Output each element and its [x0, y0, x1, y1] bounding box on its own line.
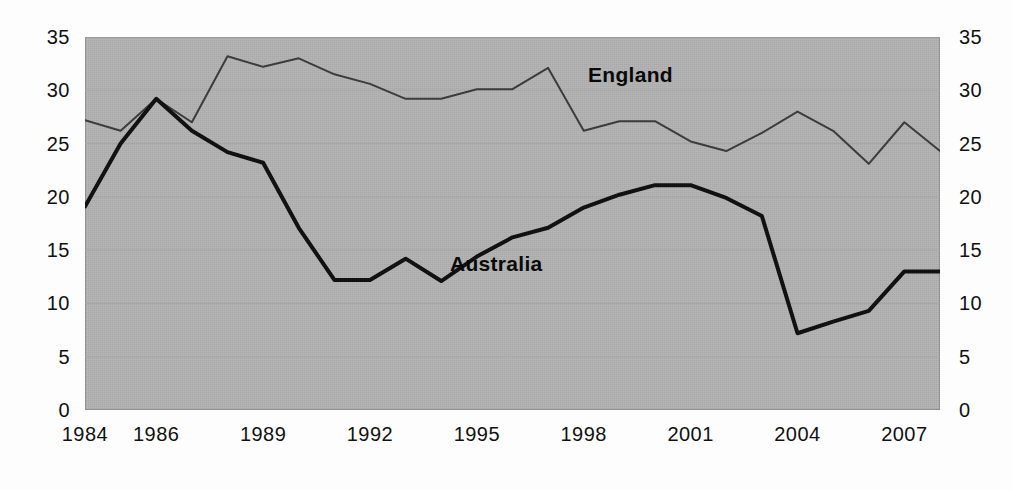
- series-line-australia: [85, 99, 940, 333]
- plot-area: [85, 37, 940, 410]
- line-chart: 35302520151050 35302520151050 1984198619…: [0, 0, 1012, 490]
- y-tick-label: 30: [22, 80, 78, 100]
- series-label-australia: Australia: [450, 252, 543, 276]
- y-tick-label: 30: [949, 80, 1005, 100]
- x-tick-label: 1986: [133, 424, 180, 444]
- x-tick-label: 1992: [347, 424, 394, 444]
- x-tick-label: 1989: [240, 424, 287, 444]
- y-tick-label: 5: [22, 347, 78, 367]
- y-axis-right: 35302520151050: [949, 37, 1005, 410]
- x-tick-label: 1984: [62, 424, 109, 444]
- y-tick-label: 20: [22, 187, 78, 207]
- y-tick-label: 10: [949, 293, 1005, 313]
- y-tick-label: 25: [949, 134, 1005, 154]
- x-tick-label: 2007: [881, 424, 928, 444]
- x-tick-label: 2004: [774, 424, 821, 444]
- y-tick-label: 0: [22, 400, 78, 420]
- series-label-england: England: [588, 63, 673, 87]
- x-axis: 198419861989199219951998200120042007: [85, 424, 940, 458]
- y-tick-label: 25: [22, 134, 78, 154]
- y-tick-label: 10: [22, 293, 78, 313]
- y-tick-label: 35: [22, 27, 78, 47]
- series-line-england: [85, 56, 940, 164]
- y-tick-label: 5: [949, 347, 1005, 367]
- x-tick-label: 1995: [454, 424, 501, 444]
- x-tick-label: 1998: [561, 424, 608, 444]
- x-tick-label: 2001: [667, 424, 714, 444]
- y-axis-left: 35302520151050: [22, 37, 78, 410]
- y-tick-label: 15: [22, 240, 78, 260]
- series-canvas: [85, 37, 940, 410]
- y-tick-label: 35: [949, 27, 1005, 47]
- y-tick-label: 20: [949, 187, 1005, 207]
- y-tick-label: 0: [949, 400, 1005, 420]
- y-tick-label: 15: [949, 240, 1005, 260]
